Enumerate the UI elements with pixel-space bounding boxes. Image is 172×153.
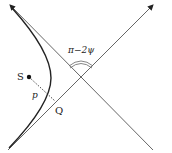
focus-point (27, 75, 31, 79)
label-angle: π−2ψ (67, 45, 95, 55)
orbit-diagram: S p Q π−2ψ (0, 0, 172, 153)
label-foot-point: Q (55, 105, 63, 116)
label-focus: S (17, 71, 24, 82)
angle-arc-inner (70, 64, 92, 69)
label-impact-parameter: p (32, 90, 38, 100)
